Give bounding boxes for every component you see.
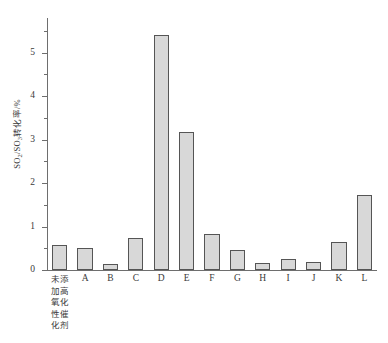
- y-axis-title-sub2: 3: [16, 137, 23, 140]
- x-tick-label: A: [72, 274, 97, 284]
- x-tick-label: L: [352, 274, 377, 284]
- y-tick-label: 0: [30, 265, 35, 275]
- bar: [77, 248, 92, 270]
- x-tick-label: K: [326, 274, 351, 284]
- y-axis-title-mid: /SO: [12, 140, 22, 154]
- bar: [204, 234, 219, 270]
- y-axis-title-sub1: 2: [16, 154, 23, 157]
- bar: [154, 35, 169, 270]
- x-tick-label: I: [275, 274, 300, 284]
- y-axis-title-post: 转化率/%: [12, 99, 22, 136]
- x-tick-label: H: [250, 274, 275, 284]
- x-axis-line: [47, 270, 377, 271]
- bar-chart: SO2/SO3转化率/% 012345 未添 加高 氧化 性催 化剂ABCDEF…: [0, 0, 388, 343]
- bar: [357, 195, 372, 270]
- bars-layer: [47, 18, 377, 270]
- plot-area: 012345: [47, 18, 377, 270]
- x-tick-label: G: [225, 274, 250, 284]
- bar: [103, 264, 118, 270]
- y-tick-label: 1: [30, 222, 35, 232]
- bar: [331, 242, 346, 270]
- bar: [179, 132, 194, 270]
- x-tick-label: D: [149, 274, 174, 284]
- x-tick-label: B: [98, 274, 123, 284]
- x-tick-label: 未添 加高 氧化 性催 化剂: [47, 274, 72, 332]
- bar: [230, 250, 245, 270]
- y-tick-label: 4: [30, 91, 35, 101]
- bar: [281, 259, 296, 270]
- x-tick-label: E: [174, 274, 199, 284]
- bar: [255, 263, 270, 270]
- bar: [306, 262, 321, 270]
- y-tick-label: 3: [30, 135, 35, 145]
- y-tick-label: 5: [30, 48, 35, 58]
- bar: [52, 245, 67, 270]
- y-axis-title-pre: SO: [12, 157, 22, 168]
- x-axis-labels: 未添 加高 氧化 性催 化剂ABCDEFGHIJKL: [47, 274, 377, 343]
- x-tick-label: F: [199, 274, 224, 284]
- bar: [128, 238, 143, 270]
- x-tick-label: J: [301, 274, 326, 284]
- y-tick-label: 2: [30, 178, 35, 188]
- y-tick-major: 0: [42, 270, 47, 271]
- y-axis-title: SO2/SO3转化率/%: [10, 74, 22, 194]
- x-tick-label: C: [123, 274, 148, 284]
